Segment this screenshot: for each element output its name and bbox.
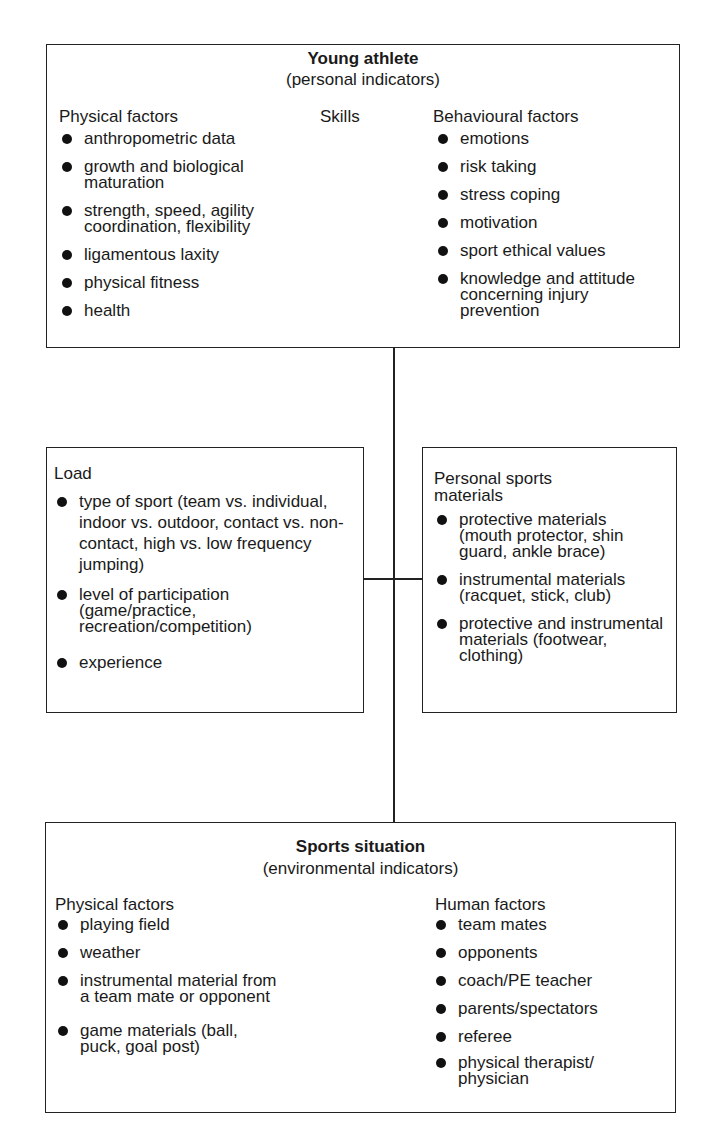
- load-box: Load type of sport (team vs. individual,…: [46, 447, 364, 713]
- connector-horizontal: [363, 578, 423, 580]
- list-item: level of participation (game/practice, r…: [54, 587, 299, 635]
- bullet-icon: [437, 619, 447, 629]
- bullet-icon: [438, 134, 448, 144]
- list-item: ligamentous laxity: [59, 247, 299, 263]
- ya-physical-heading: Physical factors: [59, 107, 299, 126]
- bullet-icon: [58, 976, 68, 986]
- ss-human-heading: Human factors: [435, 895, 665, 914]
- bullet-icon: [436, 1032, 446, 1042]
- bullet-icon: [58, 948, 68, 958]
- list-item: instrumental material from a team mate o…: [55, 973, 280, 1005]
- list-item: protective and instrumental materials (f…: [434, 616, 669, 664]
- list-item: risk taking: [435, 159, 673, 175]
- bullet-icon: [438, 162, 448, 172]
- young-athlete-subtitle: (personal indicators): [47, 70, 679, 90]
- ya-skills: Skills: [320, 107, 360, 131]
- ss-physical-heading: Physical factors: [55, 895, 295, 914]
- bullet-icon: [57, 590, 67, 600]
- bullet-icon: [438, 246, 448, 256]
- load-section: Load type of sport (team vs. individual,…: [54, 464, 359, 683]
- list-item: stress coping: [435, 187, 673, 203]
- list-item: playing field: [55, 917, 295, 933]
- list-item: coach/PE teacher: [433, 973, 665, 989]
- list-item: weather: [55, 945, 295, 961]
- bullet-icon: [58, 920, 68, 930]
- list-item: emotions: [435, 131, 673, 147]
- bullet-icon: [438, 190, 448, 200]
- bullet-icon: [62, 278, 72, 288]
- ya-behavioural-heading: Behavioural factors: [433, 107, 673, 126]
- bullet-icon: [57, 497, 67, 507]
- materials-section: Personal sports materials protective mat…: [434, 470, 674, 676]
- list-item: physical fitness: [59, 275, 299, 291]
- bullet-icon: [62, 306, 72, 316]
- bullet-icon: [58, 1026, 68, 1036]
- list-item: growth and biological maturation: [59, 159, 284, 191]
- bullet-icon: [436, 1058, 446, 1068]
- list-item: game materials (ball, puck, goal post): [55, 1023, 280, 1055]
- bullet-icon: [57, 658, 67, 668]
- bullet-icon: [436, 920, 446, 930]
- bullet-icon: [62, 250, 72, 260]
- bullet-icon: [438, 218, 448, 228]
- bullet-icon: [62, 206, 72, 216]
- list-item: sport ethical values: [435, 243, 673, 259]
- list-item: team mates: [433, 917, 665, 933]
- list-item: type of sport (team vs. individual, indo…: [54, 491, 362, 575]
- bullet-icon: [437, 575, 447, 585]
- bullet-icon: [62, 162, 72, 172]
- ss-physical-factors: Physical factors playing field weather i…: [55, 895, 295, 1067]
- sports-situation-title: Sports situation: [46, 837, 675, 857]
- list-item: knowledge and attitude concerning injury…: [435, 271, 650, 319]
- ya-behavioural-factors: Behavioural factors emotions risk taking…: [433, 107, 673, 331]
- bullet-icon: [62, 134, 72, 144]
- list-item: protective materials (mouth protector, s…: [434, 512, 659, 560]
- ss-human-factors: Human factors team mates opponents coach…: [435, 895, 665, 1099]
- bullet-icon: [436, 1004, 446, 1014]
- list-item: opponents: [433, 945, 665, 961]
- materials-heading: Personal sports materials: [434, 470, 604, 504]
- bullet-icon: [436, 948, 446, 958]
- bullet-icon: [437, 515, 447, 525]
- list-item: physical therapist/ physician: [433, 1055, 628, 1087]
- list-item: experience: [54, 655, 359, 671]
- young-athlete-title: Young athlete: [47, 49, 679, 69]
- list-item: strength, speed, agility coordination, f…: [59, 203, 314, 235]
- list-item: motivation: [435, 215, 673, 231]
- bullet-icon: [438, 274, 448, 284]
- ya-skills-heading: Skills: [320, 107, 360, 126]
- list-item: anthropometric data: [59, 131, 299, 147]
- list-item: referee: [433, 1029, 665, 1045]
- list-item: parents/spectators: [433, 1001, 665, 1017]
- personal-sports-materials-box: Personal sports materials protective mat…: [422, 447, 677, 713]
- list-item: health: [59, 303, 299, 319]
- list-item: instrumental materials (racquet, stick, …: [434, 572, 669, 604]
- connector-vertical: [393, 346, 395, 823]
- sports-situation-box: Sports situation (environmental indicato…: [45, 822, 676, 1113]
- bullet-icon: [436, 976, 446, 986]
- ya-physical-factors: Physical factors anthropometric data gro…: [59, 107, 299, 331]
- load-heading: Load: [54, 464, 359, 483]
- young-athlete-box: Young athlete (personal indicators) Phys…: [46, 44, 680, 348]
- sports-situation-subtitle: (environmental indicators): [46, 859, 675, 879]
